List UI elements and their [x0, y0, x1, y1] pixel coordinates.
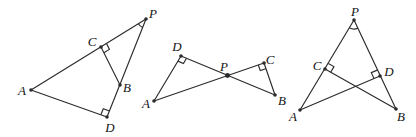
point-label-D: D [104, 120, 115, 135]
point-label-B: B [397, 109, 405, 124]
point-label-P: P [148, 6, 157, 21]
point-label-B: B [278, 93, 286, 108]
segment-PD [107, 19, 146, 117]
left-triangle-figure: APCBD [17, 6, 157, 135]
point-B [273, 93, 277, 97]
point-D [378, 74, 382, 78]
angle-arc-P [138, 24, 142, 28]
point-label-A: A [141, 96, 150, 111]
point-C [323, 67, 327, 71]
point-label-C: C [313, 58, 322, 73]
segment-PA [300, 20, 354, 110]
point-label-A: A [17, 83, 26, 98]
point-P [225, 73, 230, 78]
geometry-figure-canvas: APCBDADPCBPABCD [0, 0, 416, 137]
bowtie-figure: ADPCB [141, 39, 286, 111]
point-label-A: A [288, 109, 297, 124]
segment-CB [264, 63, 275, 95]
point-D [105, 115, 109, 119]
segment-AC [154, 63, 264, 101]
point-label-B: B [123, 80, 131, 95]
point-label-C: C [266, 52, 275, 67]
point-A [29, 88, 33, 92]
point-C [99, 45, 103, 49]
right-triangle-figure: PABCD [288, 4, 405, 124]
triangle-diagrams-svg: APCBDADPCBPABCD [0, 0, 416, 137]
segment-AD [31, 90, 107, 117]
angle-arc-P [349, 28, 357, 29]
point-A [152, 99, 156, 103]
point-label-P: P [350, 4, 359, 19]
point-D [179, 54, 183, 58]
point-label-C: C [88, 34, 97, 49]
point-P [352, 18, 356, 22]
point-label-P: P [219, 59, 228, 74]
point-A [298, 108, 302, 112]
point-B [118, 83, 122, 87]
point-label-D: D [171, 39, 182, 54]
point-P [144, 17, 148, 21]
point-label-D: D [383, 64, 394, 79]
segment-AD [154, 56, 181, 101]
